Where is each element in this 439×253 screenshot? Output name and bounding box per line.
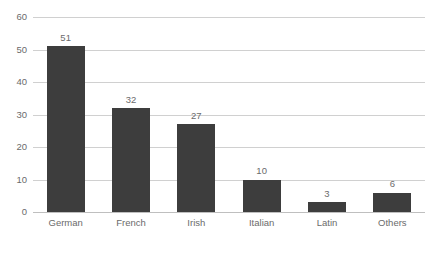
- bar-value-label: 6: [390, 179, 395, 189]
- bar-group: 6: [360, 17, 425, 212]
- bar-group: 3: [294, 17, 359, 212]
- gridline-0: [33, 212, 425, 213]
- x-tick-label-latin: Latin: [317, 218, 338, 228]
- x-tick-label-irish: Irish: [187, 218, 205, 228]
- bar[interactable]: [308, 202, 346, 212]
- y-tick-label-50: 50: [16, 45, 27, 55]
- bar-group: 27: [164, 17, 229, 212]
- x-tick-label-german: German: [48, 218, 82, 228]
- y-tick-label-30: 30: [16, 110, 27, 120]
- bar-value-label: 32: [126, 95, 137, 105]
- bar-group: 51: [33, 17, 98, 212]
- y-tick-label-40: 40: [16, 77, 27, 87]
- y-tick-label-60: 60: [16, 12, 27, 22]
- x-tick-label-italian: Italian: [249, 218, 274, 228]
- bar[interactable]: [373, 193, 411, 213]
- bar-value-label: 27: [191, 111, 202, 121]
- x-tick-label-others: Others: [378, 218, 407, 228]
- bar-group: 10: [229, 17, 294, 212]
- bar[interactable]: [177, 124, 215, 212]
- x-tick-label-french: French: [116, 218, 146, 228]
- bar-value-label: 51: [60, 33, 71, 43]
- plot-area: 0102030405060 5132271036: [33, 17, 425, 212]
- y-tick-label-20: 20: [16, 142, 27, 152]
- bar-group: 32: [98, 17, 163, 212]
- bar-value-label: 10: [256, 166, 267, 176]
- y-tick-label-10: 10: [16, 175, 27, 185]
- bar-value-label: 3: [324, 189, 329, 199]
- bars: 5132271036: [33, 17, 425, 212]
- y-tick-label-0: 0: [22, 207, 27, 217]
- bar[interactable]: [243, 180, 281, 213]
- bar[interactable]: [47, 46, 85, 212]
- x-axis-ticks: GermanFrenchIrishItalianLatinOthers: [33, 218, 425, 234]
- bar[interactable]: [112, 108, 150, 212]
- bar-chart-figure: 0102030405060 5132271036 GermanFrenchIri…: [0, 0, 439, 253]
